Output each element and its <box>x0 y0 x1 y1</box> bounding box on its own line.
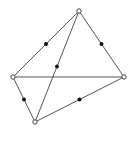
midpoint-dot-left-bottom <box>22 98 26 102</box>
graph-svg <box>0 0 138 141</box>
vertex-top <box>77 9 81 13</box>
graph-diagram <box>0 0 138 141</box>
vertex-bottom <box>33 120 37 124</box>
midpoint-dot-top-right <box>100 42 104 46</box>
vertex-left <box>11 75 15 79</box>
vertex-right <box>122 75 126 79</box>
midpoint-dot-top-left <box>44 42 48 46</box>
midpoint-dot-bottom-right <box>78 98 82 102</box>
midpoint-dot-top-bottom <box>55 65 59 69</box>
edges-group <box>13 11 124 122</box>
